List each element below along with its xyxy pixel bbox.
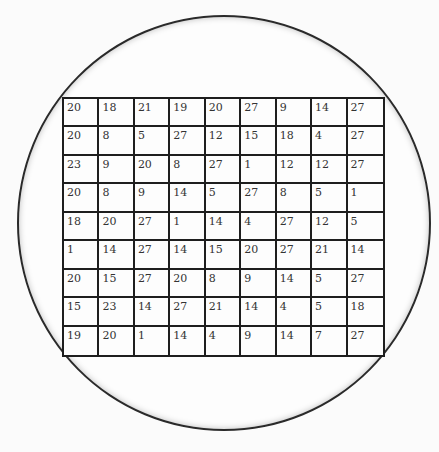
- grid-cell: 27: [241, 184, 276, 212]
- grid-cell: 15: [241, 127, 276, 155]
- grid-cell: 27: [348, 127, 383, 155]
- grid-cell: 15: [206, 241, 241, 269]
- grid-cell: 5: [312, 298, 347, 326]
- grid-cell: 14: [312, 99, 347, 127]
- number-grid: 2018211920279142720852712151842723920827…: [62, 97, 385, 357]
- grid-cell: 9: [241, 327, 276, 355]
- grid-cell: 1: [64, 241, 99, 269]
- grid-cell: 27: [277, 241, 312, 269]
- grid-cell: 8: [277, 184, 312, 212]
- grid-cell: 20: [241, 241, 276, 269]
- grid-cell: 14: [206, 213, 241, 241]
- grid-cell: 14: [135, 298, 170, 326]
- grid-cell: 14: [348, 241, 383, 269]
- grid-cell: 19: [64, 327, 99, 355]
- grid-cell: 23: [99, 298, 134, 326]
- grid-cell: 8: [206, 270, 241, 298]
- grid-cell: 18: [277, 127, 312, 155]
- grid-cell: 20: [170, 270, 205, 298]
- grid-cell: 1: [170, 213, 205, 241]
- grid-cell: 15: [64, 298, 99, 326]
- grid-cell: 12: [312, 156, 347, 184]
- grid-cell: 8: [99, 127, 134, 155]
- grid-cell: 27: [170, 127, 205, 155]
- grid-cell: 20: [64, 270, 99, 298]
- grid-cell: 18: [64, 213, 99, 241]
- grid-cell: 27: [135, 270, 170, 298]
- grid-cell: 9: [277, 99, 312, 127]
- grid-cell: 1: [348, 184, 383, 212]
- grid-cell: 14: [277, 270, 312, 298]
- grid-cell: 14: [170, 327, 205, 355]
- grid-cell: 14: [277, 327, 312, 355]
- grid-cell: 12: [312, 213, 347, 241]
- grid-cell: 12: [277, 156, 312, 184]
- grid-cell: 5: [135, 127, 170, 155]
- grid-cell: 4: [241, 213, 276, 241]
- grid-cell: 18: [99, 99, 134, 127]
- grid-cell: 21: [135, 99, 170, 127]
- grid-cell: 21: [206, 298, 241, 326]
- grid-cell: 27: [348, 270, 383, 298]
- grid-cell: 9: [99, 156, 134, 184]
- grid-cell: 1: [135, 327, 170, 355]
- grid-cell: 1: [241, 156, 276, 184]
- grid-cell: 5: [206, 184, 241, 212]
- grid-cell: 20: [99, 327, 134, 355]
- grid-cell: 15: [99, 270, 134, 298]
- grid-cell: 12: [206, 127, 241, 155]
- grid-cell: 21: [312, 241, 347, 269]
- grid-cell: 5: [348, 213, 383, 241]
- grid-cell: 14: [241, 298, 276, 326]
- grid-cell: 4: [312, 127, 347, 155]
- grid-cell: 27: [170, 298, 205, 326]
- grid-cell: 14: [170, 241, 205, 269]
- grid-cell: 27: [277, 213, 312, 241]
- grid-cell: 19: [170, 99, 205, 127]
- grid-cell: 5: [312, 270, 347, 298]
- grid-cell: 9: [241, 270, 276, 298]
- grid-cell: 9: [135, 184, 170, 212]
- grid-cell: 27: [241, 99, 276, 127]
- grid-cell: 4: [277, 298, 312, 326]
- grid-cell: 20: [206, 99, 241, 127]
- grid-cell: 14: [170, 184, 205, 212]
- grid-cell: 20: [99, 213, 134, 241]
- grid-cell: 14: [99, 241, 134, 269]
- grid-cell: 20: [64, 127, 99, 155]
- grid-cell: 20: [64, 184, 99, 212]
- grid-cell: 27: [135, 213, 170, 241]
- grid-cell: 5: [312, 184, 347, 212]
- grid-cell: 27: [348, 327, 383, 355]
- grid-cell: 8: [170, 156, 205, 184]
- grid-cell: 20: [135, 156, 170, 184]
- grid-cell: 4: [206, 327, 241, 355]
- grid-cell: 27: [206, 156, 241, 184]
- grid-cell: 23: [64, 156, 99, 184]
- grid-cell: 18: [348, 298, 383, 326]
- grid-cell: 20: [64, 99, 99, 127]
- grid-cell: 27: [348, 156, 383, 184]
- grid-cell: 27: [135, 241, 170, 269]
- grid-cell: 8: [99, 184, 134, 212]
- grid-cell: 27: [348, 99, 383, 127]
- grid-cell: 7: [312, 327, 347, 355]
